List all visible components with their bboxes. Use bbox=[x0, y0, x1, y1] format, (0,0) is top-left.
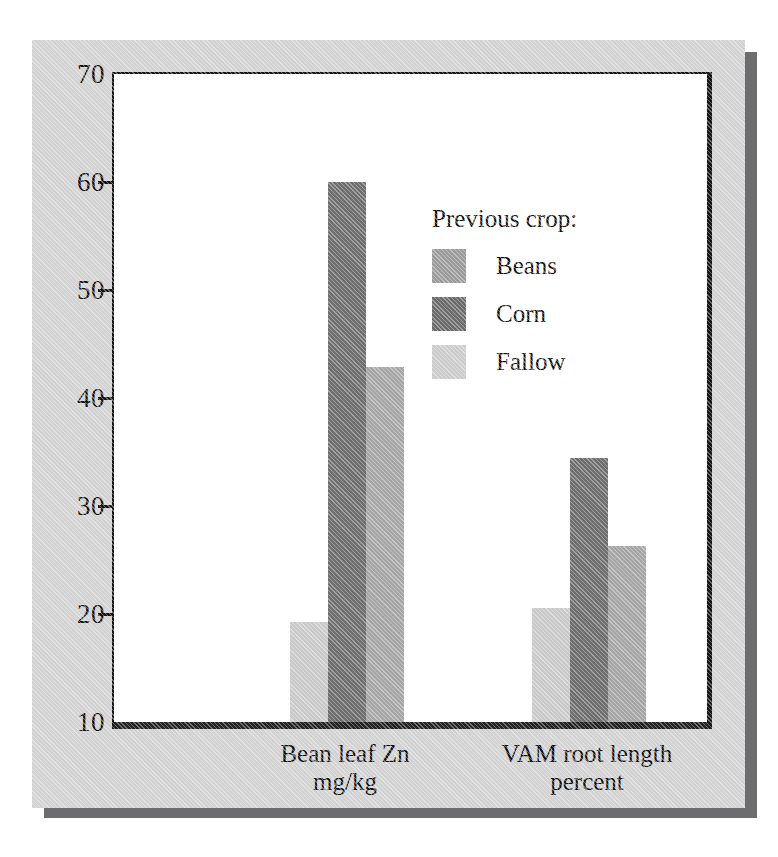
legend-item: Fallow bbox=[432, 345, 577, 379]
bar-fallow-1 bbox=[366, 367, 404, 722]
x-axis-group-label-line2: percent bbox=[427, 768, 747, 796]
y-axis-tick-label: 10 bbox=[77, 709, 105, 736]
chart-panel: 70605040302010 Previous crop: BeansCornF… bbox=[32, 40, 745, 808]
y-axis-tick-label: 30 bbox=[77, 493, 105, 520]
y-axis-tick-label: 40 bbox=[77, 385, 105, 412]
y-axis-tick-label: 60 bbox=[77, 169, 105, 196]
legend-swatch-icon bbox=[432, 249, 466, 283]
y-axis-tick-label: 70 bbox=[77, 61, 105, 88]
x-axis-group-label: VAM root lengthpercent bbox=[427, 740, 747, 796]
figure-container: 70605040302010 Previous crop: BeansCornF… bbox=[0, 0, 778, 857]
legend-entries: BeansCornFallow bbox=[432, 249, 577, 379]
bar-fallow-2 bbox=[608, 546, 646, 722]
x-axis-group-label-line1: VAM root length bbox=[427, 740, 747, 768]
legend-item-label: Fallow bbox=[496, 348, 565, 376]
bar-beans-1 bbox=[290, 622, 328, 722]
legend-item-label: Corn bbox=[496, 300, 546, 328]
plot-inner: 70605040302010 bbox=[114, 74, 707, 722]
legend-title: Previous crop: bbox=[432, 205, 577, 233]
bar-corn-1 bbox=[328, 182, 366, 722]
legend-item-label: Beans bbox=[496, 252, 557, 280]
legend-swatch-icon bbox=[432, 345, 466, 379]
bar-corn-2 bbox=[570, 458, 608, 722]
legend: Previous crop: BeansCornFallow bbox=[432, 205, 577, 393]
plot-area: 70605040302010 bbox=[112, 72, 712, 729]
bar-beans-2 bbox=[532, 608, 570, 722]
y-axis-tick-label: 20 bbox=[77, 601, 105, 628]
legend-item: Beans bbox=[432, 249, 577, 283]
legend-swatch-icon bbox=[432, 297, 466, 331]
legend-item: Corn bbox=[432, 297, 577, 331]
y-axis-tick-label: 50 bbox=[77, 277, 105, 304]
